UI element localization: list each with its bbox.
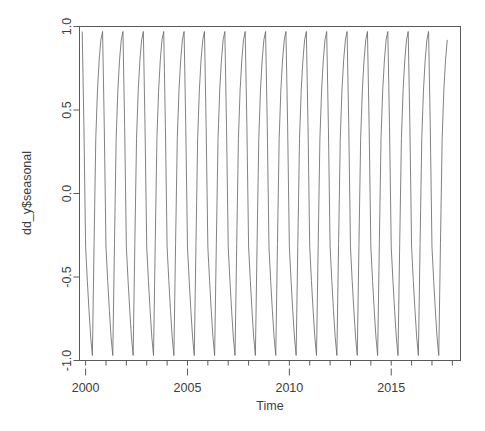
y-axis: -1.0-0.50.00.51.0 [60, 18, 80, 372]
y-tick-label: -0.5 [60, 266, 74, 288]
x-axis-label: Time [256, 399, 283, 413]
data-series-group [82, 32, 447, 356]
x-tick-label: 2015 [377, 381, 405, 395]
y-tick-label: -1.0 [60, 350, 74, 372]
y-tick-label: 1.0 [60, 18, 74, 35]
y-tick-label: 0.0 [60, 185, 74, 202]
chart-canvas: -1.0-0.50.00.51.0 2000200520102015 dd_y$… [0, 0, 485, 431]
x-tick-label: 2010 [275, 381, 303, 395]
x-tick-label: 2005 [174, 381, 202, 395]
seasonal-series-line [82, 32, 447, 356]
y-axis-label: dd_y$seasonal [20, 151, 34, 235]
y-tick-label: 0.5 [60, 101, 74, 118]
seasonal-line-chart: -1.0-0.50.00.51.0 2000200520102015 dd_y$… [0, 0, 485, 431]
x-axis: 2000200520102015 [72, 361, 453, 395]
x-tick-label: 2000 [72, 381, 100, 395]
plot-frame [80, 27, 461, 361]
